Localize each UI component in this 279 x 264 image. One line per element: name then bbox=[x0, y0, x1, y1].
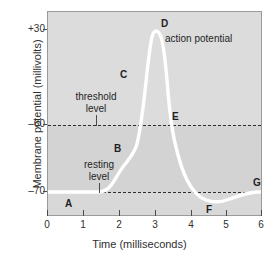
point-label-d: D bbox=[161, 18, 168, 29]
point-label-e: E bbox=[172, 111, 179, 122]
x-tick-label-3: 3 bbox=[152, 219, 158, 230]
x-tick-label-0: 0 bbox=[44, 219, 50, 230]
x-tick-mark-5 bbox=[226, 210, 227, 216]
action-potential-figure: Membrane potential (millivolts) +30 –60 … bbox=[0, 0, 279, 264]
action-potential-annotation: action potential bbox=[165, 33, 232, 44]
x-tick-label-2: 2 bbox=[116, 219, 122, 230]
x-tick-label-5: 5 bbox=[223, 219, 229, 230]
point-label-g: G bbox=[253, 177, 261, 188]
point-label-a: A bbox=[65, 198, 72, 209]
point-label-b: B bbox=[114, 143, 121, 154]
x-tick-mark-0 bbox=[47, 210, 48, 216]
x-tick-mark-2 bbox=[119, 210, 120, 216]
threshold-leader-line bbox=[96, 115, 97, 126]
point-label-f: F bbox=[206, 204, 212, 215]
x-tick-mark-4 bbox=[191, 210, 192, 216]
threshold-level-annotation-line2: level bbox=[55, 103, 137, 114]
resting-leader-line bbox=[99, 183, 100, 193]
x-tick-label-1: 1 bbox=[80, 219, 86, 230]
point-label-c: C bbox=[120, 69, 127, 80]
x-tick-mark-6 bbox=[261, 210, 262, 216]
plot-area: A B C D E F G action potential threshold… bbox=[47, 11, 262, 216]
threshold-level-annotation-line1: threshold bbox=[55, 91, 137, 102]
x-tick-mark-1 bbox=[83, 210, 84, 216]
x-axis-title: Time (milliseconds) bbox=[0, 238, 279, 250]
x-tick-label-4: 4 bbox=[188, 219, 194, 230]
resting-level-annotation-line2: level bbox=[62, 171, 136, 182]
x-tick-mark-3 bbox=[155, 210, 156, 216]
resting-level-annotation-line1: resting bbox=[62, 159, 136, 170]
x-tick-label-6: 6 bbox=[258, 219, 264, 230]
